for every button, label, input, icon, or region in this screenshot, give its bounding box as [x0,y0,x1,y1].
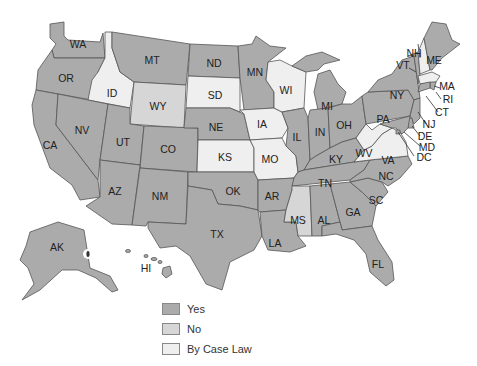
label-NY: NY [390,89,405,101]
label-WV: WV [356,147,373,159]
label-SC: SC [369,194,384,206]
label-UT: UT [116,136,131,148]
label-GA: GA [345,206,360,218]
legend-label-case-law: By Case Law [187,343,252,355]
label-CA: CA [43,139,58,151]
label-IL: IL [293,131,302,143]
label-VA: VA [381,154,394,166]
label-AL: AL [318,214,331,226]
alaska-inset-dot [86,251,89,257]
label-NM: NM [152,190,168,202]
label-DC: DC [416,151,432,163]
label-IN: IN [315,126,326,138]
legend-swatch-no [162,323,180,335]
label-CT: CT [435,106,450,118]
label-ID: ID [107,87,118,99]
legend-item-no: No [162,320,252,338]
label-NH: NH [406,47,421,59]
label-HI: HI [141,262,152,274]
label-TX: TX [210,228,223,240]
label-NE: NE [209,121,224,133]
legend-label-yes: Yes [187,303,205,315]
label-IA: IA [257,118,267,130]
label-MN: MN [247,66,263,78]
label-NC: NC [378,170,394,182]
label-FL: FL [372,258,384,270]
legend-label-no: No [187,323,201,335]
label-LA: LA [269,237,282,249]
legend-swatch-yes [162,303,180,315]
label-AK: AK [50,241,64,253]
label-NV: NV [75,124,90,136]
label-PA: PA [376,113,389,125]
label-OK: OK [225,185,240,197]
label-SD: SD [208,89,223,101]
label-ME: ME [426,54,442,66]
legend-item-case-law: By Case Law [162,340,252,358]
label-AR: AR [265,190,280,202]
label-WA: WA [70,38,87,50]
label-MO: MO [262,153,279,165]
label-KY: KY [329,153,343,165]
label-MA: MA [439,80,455,92]
label-WY: WY [150,100,167,112]
label-OH: OH [336,119,352,131]
label-AZ: AZ [108,185,122,197]
label-MI: MI [321,100,333,112]
label-MS: MS [290,214,306,226]
legend: Yes No By Case Law [162,300,252,360]
state-FL[interactable] [322,222,394,286]
label-WI: WI [280,84,293,96]
legend-swatch-case-law [162,343,180,355]
label-ND: ND [206,57,222,69]
label-TN: TN [318,177,332,189]
state-AK[interactable] [20,222,118,300]
label-RI: RI [443,93,454,105]
label-CO: CO [160,143,176,155]
label-MT: MT [144,54,160,66]
label-NJ: NJ [423,118,436,130]
label-KS: KS [218,151,232,163]
legend-item-yes: Yes [162,300,252,318]
label-VT: VT [396,59,410,71]
label-OR: OR [58,72,74,84]
